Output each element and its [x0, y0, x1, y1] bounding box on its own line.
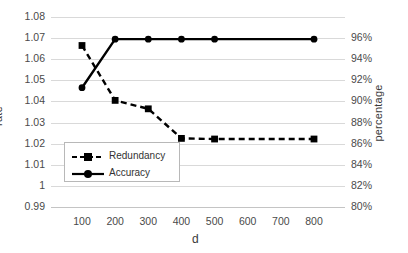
- legend-label-redundancy: Redundancy: [109, 150, 165, 161]
- x-tick-label: 100: [66, 215, 98, 227]
- x-tick-label: 300: [132, 215, 164, 227]
- y-tick-label-left: 1.07: [13, 31, 45, 43]
- y-tick-label-right: 92%: [351, 73, 385, 85]
- y-tick-label-right: 94%: [351, 52, 385, 64]
- x-tick-label: 700: [265, 215, 297, 227]
- data-point: [178, 135, 185, 142]
- data-point: [178, 36, 185, 43]
- y-axis-label-right: percentage: [372, 84, 384, 141]
- y-tick-label-left: 1.08: [13, 10, 45, 22]
- y-tick-label-left: 1.01: [13, 158, 45, 170]
- y-tick-label-left: 1.02: [13, 137, 45, 149]
- y-tick-label-right: 96%: [351, 31, 385, 43]
- x-tick-label: 600: [232, 215, 264, 227]
- x-tick-label: 800: [298, 215, 330, 227]
- chart-container: rate percentage d 1.081.071.061.051.041.…: [0, 0, 408, 253]
- y-tick-label-left: 1.04: [13, 94, 45, 106]
- gridline: [51, 207, 345, 208]
- series-redundancy: [79, 42, 318, 142]
- data-point: [311, 36, 318, 43]
- legend-swatch-solid-circle: [71, 166, 105, 178]
- y-tick-label-right: 88%: [351, 116, 385, 128]
- data-point: [112, 97, 119, 104]
- x-axis-label: d: [192, 232, 199, 246]
- y-tick-label-right: 80%: [351, 200, 385, 212]
- data-point: [145, 105, 152, 112]
- data-point: [79, 42, 86, 49]
- y-tick-label-right: 82%: [351, 179, 385, 191]
- data-point: [211, 136, 218, 143]
- y-tick-label-right: 84%: [351, 158, 385, 170]
- series-accuracy: [79, 36, 318, 91]
- y-tick-label-left: 0.99: [13, 200, 45, 212]
- y-tick-label-left: 1.06: [13, 52, 45, 64]
- y-tick-label-left: 1: [13, 179, 45, 191]
- data-point: [112, 36, 119, 43]
- x-tick-label: 500: [199, 215, 231, 227]
- data-point: [211, 36, 218, 43]
- legend-item-accuracy: Accuracy: [71, 164, 150, 180]
- y-tick-label-right: 90%: [351, 94, 385, 106]
- legend-label-accuracy: Accuracy: [109, 167, 150, 178]
- legend-item-redundancy: Redundancy: [71, 147, 165, 163]
- x-tick-label: 200: [99, 215, 131, 227]
- chart-legend: Redundancy Accuracy: [64, 142, 180, 182]
- y-tick-label-right: 86%: [351, 137, 385, 149]
- y-axis-label-left: rate: [0, 106, 4, 126]
- series-line: [82, 39, 314, 88]
- legend-swatch-dashed-square: [71, 149, 105, 161]
- data-point: [145, 36, 152, 43]
- x-tick-label: 400: [165, 215, 197, 227]
- series-line: [82, 46, 314, 140]
- data-point: [79, 84, 86, 91]
- y-tick-label-left: 1.05: [13, 73, 45, 85]
- y-tick-label-left: 1.03: [13, 116, 45, 128]
- data-point: [311, 136, 318, 143]
